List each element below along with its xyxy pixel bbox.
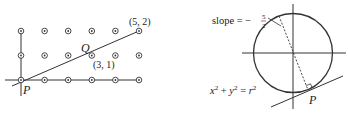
lattice-point-center [115,79,117,81]
lattice-point-center [115,55,117,57]
slope-label: slope = − 5 2 [212,13,266,30]
svg-text:x2 + y2 = r2: x2 + y2 = r2 [209,84,257,96]
lattice-point-center [91,79,93,81]
lattice-point-center [67,30,69,32]
label-point-5-2: (5, 2) [129,16,151,28]
lattice-point-center [67,55,69,57]
lattice-point-center [44,55,46,57]
label-Q: Q [81,41,90,55]
line-PQ [12,31,139,86]
lattice-point-center [20,55,22,57]
slope-pointer [268,18,281,26]
lattice-point-center [138,55,140,57]
svg-text:2: 2 [262,22,266,30]
label-P-right: P [308,93,317,107]
circle-equation: x2 + y2 = r2 [209,84,257,96]
lattice-point-center [115,30,117,32]
lattice-point-center [20,79,22,81]
diagram-canvas: P Q (3, 1) (5, 2) slope = − 5 2 x2 + y2 … [0,0,348,117]
lattice-point-center [91,55,93,57]
lattice-point-center [138,30,140,32]
label-point-3-1: (3, 1) [93,59,115,71]
lattice-point-center [44,30,46,32]
label-P-left: P [22,83,31,97]
lattice-point-center [138,79,140,81]
lattice-point-center [67,79,69,81]
svg-text:5: 5 [262,13,266,21]
svg-text:slope = −: slope = − [212,15,251,26]
lattice-point-center [44,79,46,81]
lattice-point-center [20,30,22,32]
circle-figure [242,4,346,109]
lattice-points [18,28,142,83]
lattice-point-center [91,30,93,32]
